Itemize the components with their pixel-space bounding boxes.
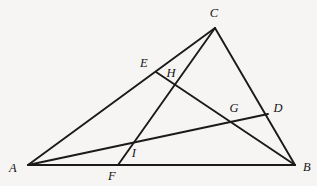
side-CB [215, 28, 295, 165]
vertex-label-D: D [273, 102, 282, 115]
vertex-label-F: F [108, 170, 116, 183]
vertex-label-B: B [303, 161, 311, 174]
cevian-EB [156, 72, 295, 165]
vertex-label-H: H [166, 67, 175, 80]
vertex-label-E: E [140, 57, 148, 70]
geometry-canvas [0, 0, 317, 186]
vertex-label-I: I [132, 147, 136, 160]
cevian-CF [118, 28, 215, 165]
segment-group [28, 28, 295, 165]
vertex-label-A: A [9, 162, 17, 175]
vertex-label-C: C [210, 7, 219, 20]
vertex-label-G: G [229, 102, 238, 115]
geometry-figure: A B C D E F G H I [0, 0, 317, 186]
